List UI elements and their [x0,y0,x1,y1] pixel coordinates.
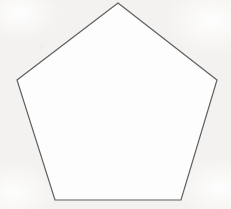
pentagon-drawing [0,0,231,209]
pentagon-shape [17,3,217,200]
figure-canvas [0,0,231,209]
